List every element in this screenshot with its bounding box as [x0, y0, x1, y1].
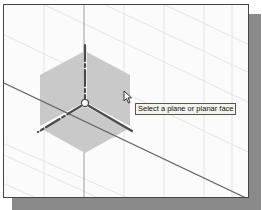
3d-viewport[interactable]: Select a plane or planar face [3, 4, 249, 198]
tooltip: Select a plane or planar face [135, 103, 236, 115]
origin-point [82, 100, 89, 107]
